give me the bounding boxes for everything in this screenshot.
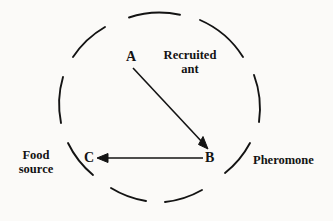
circle-arc-upper-left [73,27,105,57]
annotation-recruited-ant: Recruited ant [152,48,228,76]
arrow-b-to-c-head [97,154,108,163]
node-label-a: A [126,50,136,64]
circle-arc-bottom-left [111,188,146,201]
circle-arc-top [129,13,180,18]
annotation-food-source: Food source [8,148,64,176]
arrow-a-to-b-head [199,137,209,150]
annotation-pheromone: Pheromone [253,153,314,167]
annotation-recruited-ant-line1: Recruited [152,48,228,62]
arrow-a-to-b-shaft [133,68,203,143]
circle-arc-lower-right [225,143,250,173]
annotation-recruited-ant-line2: ant [152,62,228,76]
circle-arc-left [59,77,63,123]
annotation-food-source-line1: Food [8,148,64,162]
node-label-b: B [205,151,214,165]
arrows-group [97,68,208,163]
arrow-a-to-b [133,68,208,149]
annotation-food-source-line2: source [8,162,64,176]
diagram-canvas [0,0,333,221]
arrow-b-to-c [97,154,203,163]
node-label-c: C [84,151,94,165]
dashed-circle [59,13,260,202]
circle-arc-right [254,75,260,122]
circle-arc-bottom-right [165,190,202,202]
ant-recruitment-diagram: A B C Recruited ant Pheromone Food sourc… [0,0,333,221]
